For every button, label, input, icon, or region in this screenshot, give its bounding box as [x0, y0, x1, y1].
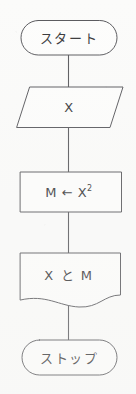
flowchart-canvas: スタート X M ← X2 X と M ストップ	[0, 0, 136, 394]
input-parallelogram-label: X	[64, 100, 73, 115]
start-terminator: スタート	[21, 21, 117, 56]
document-output-label: X と M	[44, 268, 93, 283]
process-rectangle-label: M ← X2	[45, 184, 92, 200]
process-expression-base: M ← X	[45, 185, 87, 200]
process-expression-superscript: 2	[87, 184, 93, 193]
flowchart-svg: スタート X M ← X2 X と M ストップ	[0, 0, 136, 394]
start-terminator-label: スタート	[40, 31, 98, 46]
input-parallelogram: X	[17, 87, 123, 128]
document-output: X と M	[21, 253, 121, 307]
stop-terminator: ストップ	[22, 340, 117, 375]
process-rectangle: M ← X2	[21, 172, 122, 212]
stop-terminator-label: ストップ	[40, 351, 98, 366]
